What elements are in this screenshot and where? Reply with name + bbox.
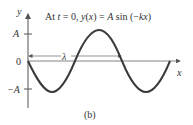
diagram-title: At t = 0, y(x) = A sin (−kx) [45, 11, 151, 23]
wavelength-label: λ [61, 51, 67, 62]
tick-label-zero: 0 [16, 56, 21, 67]
x-axis-label: x [176, 67, 182, 78]
tick-label-A: A [12, 28, 20, 39]
figure-caption: (b) [84, 109, 96, 121]
tick-label-negA: −A [7, 84, 21, 95]
wave-diagram: y x A 0 −A λ At t = 0, y(x) = A sin (−kx… [0, 0, 193, 125]
y-axis-label: y [16, 6, 22, 17]
